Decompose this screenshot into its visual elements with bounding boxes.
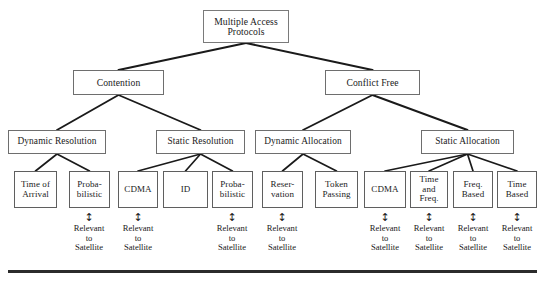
node-prob2[interactable]: Proba- bilistic <box>212 171 253 208</box>
satellite-label-cdma2: Relevant to Satellite <box>360 224 410 253</box>
node-cdma2[interactable]: CDMA <box>364 171 406 208</box>
diagram-canvas: Multiple Access ProtocolsContentionConfl… <box>0 0 545 286</box>
edge-cfree-to-dynalloc <box>303 95 373 130</box>
updown-arrow-icon-prob2: ↕ <box>222 212 242 223</box>
node-statres[interactable]: Static Resolution <box>156 130 245 154</box>
node-timefreq[interactable]: Time and Freq. <box>410 171 448 208</box>
node-toa[interactable]: Time of Arrival <box>14 171 57 208</box>
node-cdma1[interactable]: CDMA <box>118 171 158 208</box>
edge-statres-to-prob2 <box>201 154 233 171</box>
updown-arrow-icon-resv: ↕ <box>272 212 292 223</box>
node-cont[interactable]: Contention <box>73 70 164 95</box>
node-dynalloc[interactable]: Dynamic Allocation <box>255 130 351 154</box>
node-root[interactable]: Multiple Access Protocols <box>203 10 289 43</box>
node-dynres[interactable]: Dynamic Resolution <box>8 130 106 154</box>
satellite-label-timefreq: Relevant to Satellite <box>404 224 454 253</box>
bottom-rule <box>8 270 537 273</box>
edge-statallc-to-timeb <box>468 154 518 171</box>
edge-dynalloc-to-token <box>303 154 337 171</box>
node-id[interactable]: ID <box>163 171 208 208</box>
updown-arrow-icon-timefreq: ↕ <box>419 212 439 223</box>
updown-arrow-icon-prob1: ↕ <box>79 212 99 223</box>
satellite-label-prob1: Relevant to Satellite <box>64 224 114 253</box>
satellite-label-prob2: Relevant to Satellite <box>207 224 257 253</box>
node-timeb[interactable]: Time Based <box>497 171 537 208</box>
edge-root-to-cfree <box>246 43 373 70</box>
edge-dynalloc-to-resv <box>283 154 304 171</box>
edge-dynres-to-prob1 <box>57 154 90 171</box>
satellite-label-timeb: Relevant to Satellite <box>492 224 542 253</box>
edge-dynres-to-toa <box>36 154 58 171</box>
updown-arrow-icon-cdma1: ↕ <box>128 212 148 223</box>
node-resv[interactable]: Reser- vation <box>262 171 303 208</box>
node-cfree[interactable]: Conflict Free <box>325 70 420 95</box>
edge-cont-to-dynres <box>57 95 119 130</box>
edge-statres-to-cdma1 <box>138 154 201 171</box>
satellite-label-cdma1: Relevant to Satellite <box>113 224 163 253</box>
node-prob1[interactable]: Proba- bilistic <box>69 171 110 208</box>
updown-arrow-icon-freqb: ↕ <box>463 212 483 223</box>
edge-root-to-cont <box>119 43 247 70</box>
node-statallc[interactable]: Static Allocation <box>421 130 514 154</box>
edge-cfree-to-statallc <box>373 95 468 130</box>
satellite-label-resv: Relevant to Satellite <box>257 224 307 253</box>
edge-statallc-to-freqb <box>468 154 474 171</box>
updown-arrow-icon-cdma2: ↕ <box>375 212 395 223</box>
satellite-label-freqb: Relevant to Satellite <box>448 224 498 253</box>
edge-cont-to-statres <box>119 95 201 130</box>
edge-statallc-to-timefreq <box>429 154 468 171</box>
node-freqb[interactable]: Freq. Based <box>453 171 493 208</box>
node-token[interactable]: Token Passing <box>315 171 358 208</box>
updown-arrow-icon-timeb: ↕ <box>507 212 527 223</box>
edge-statallc-to-cdma2 <box>385 154 468 171</box>
